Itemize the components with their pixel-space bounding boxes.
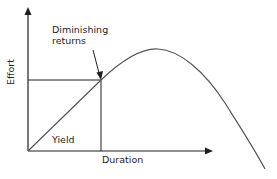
x-axis-arrow-icon	[205, 148, 213, 155]
x-axis-label: Duration	[102, 155, 143, 166]
diminishing-returns-pointer	[93, 50, 99, 73]
diminishing-returns-line2: returns	[52, 36, 108, 47]
y-axis-arrow-icon	[25, 7, 32, 15]
yield-label: Yield	[52, 135, 75, 146]
y-axis-label: Effort	[6, 59, 17, 85]
diminishing-returns-label: Diminishing returns	[52, 25, 108, 47]
diagram-canvas	[0, 0, 277, 179]
